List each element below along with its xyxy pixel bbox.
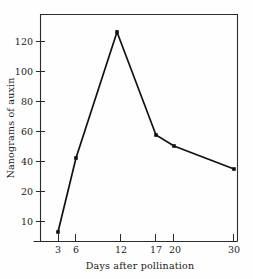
x-axis-ticks	[59, 234, 234, 242]
x-axis-tick-labels: 3 6 12 17 20 30	[55, 244, 240, 255]
x-tick-label-17: 17	[150, 244, 162, 255]
x-tick-label-12: 12	[115, 244, 127, 255]
y-tick-label-120: 120	[15, 36, 33, 47]
x-tick-label-6: 6	[73, 244, 79, 255]
y-tick-label-20: 20	[21, 186, 33, 197]
plot-frame	[41, 15, 238, 242]
y-tick-label-100: 100	[15, 66, 33, 77]
chart-figure: 120 100 80 60 40 20 10 3 6 12 17 20 30	[0, 0, 253, 279]
y-axis-tick-labels: 120 100 80 60 40 20 10	[15, 36, 33, 227]
auxin-data-line	[58, 32, 234, 232]
x-tick-label-20: 20	[169, 244, 181, 255]
y-tick-label-80: 80	[21, 96, 33, 107]
y-tick-label-10: 10	[21, 216, 33, 227]
data-point-day-30	[232, 167, 236, 171]
y-tick-label-40: 40	[21, 156, 33, 167]
auxin-line-chart: 120 100 80 60 40 20 10 3 6 12 17 20 30	[0, 0, 253, 279]
x-axis-title: Days after pollination	[86, 260, 195, 271]
data-point-day-17	[154, 133, 158, 137]
data-point-day-3	[56, 230, 60, 234]
x-tick-label-30: 30	[228, 244, 240, 255]
data-point-day-6	[74, 156, 78, 160]
data-point-day-20	[172, 144, 176, 148]
x-tick-label-3: 3	[55, 244, 61, 255]
data-point-markers	[56, 30, 236, 234]
y-tick-label-60: 60	[21, 126, 33, 137]
y-axis-title: Nanograms of auxin	[5, 77, 16, 178]
data-point-day-12	[115, 30, 119, 34]
